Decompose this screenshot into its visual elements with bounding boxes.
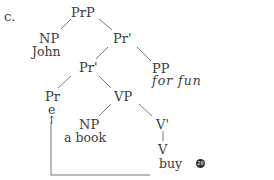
edge-vp-np	[99, 104, 111, 116]
leaf-john: John	[32, 45, 61, 58]
leaf-buy: buy	[159, 157, 182, 170]
example-label: c.	[4, 10, 15, 23]
node-pr-bar-upper: Pr'	[113, 32, 132, 45]
edge-vp-vbar	[139, 104, 152, 116]
page-marker-icon: 28	[196, 159, 205, 168]
leaf-for-fun: for fun	[152, 74, 202, 87]
edge-prp-np	[61, 19, 71, 29]
edge-prp-prbar	[99, 19, 112, 30]
arrow-up-icon: ↑	[47, 114, 56, 127]
edge-prbar-prbar	[96, 47, 108, 59]
tree-edges	[0, 0, 274, 180]
node-vp: VP	[114, 90, 132, 103]
node-v-bar: V'	[156, 118, 169, 131]
node-v: V	[158, 143, 167, 156]
node-pr-bar-lower: Pr'	[79, 61, 98, 74]
edge-prbar-vp	[99, 76, 111, 88]
leaf-a-book: a book	[64, 131, 106, 144]
edge-prbar-pr	[58, 76, 71, 88]
node-prp: PrP	[71, 6, 95, 19]
edge-prbar-pp	[137, 47, 151, 61]
